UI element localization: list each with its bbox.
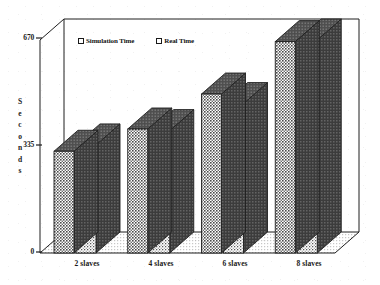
legend-item-real-time: Real Time	[156, 37, 194, 45]
bar-chart-figure: Seconds 670 335 0 Simulation Time Real T…	[0, 0, 380, 285]
y-axis-title-letter-5: d	[12, 154, 28, 166]
legend-item-simulation-time: Simulation Time	[78, 37, 134, 45]
x-tick-label-2-slaves: 2 slaves	[57, 259, 117, 268]
bar-6-slaves-simulation-time	[202, 73, 246, 253]
y-tick-label-335: 335	[10, 140, 34, 149]
bar-4-slaves-simulation-time	[128, 108, 172, 253]
y-axis-ticks	[36, 38, 42, 252]
y-axis-title-letter-0: S	[12, 96, 28, 108]
y-axis-title-letter-1: e	[12, 108, 28, 120]
x-tick-label-8-slaves: 8 slaves	[279, 259, 339, 268]
open-square-marker-icon	[156, 38, 162, 44]
bar-8-slaves-simulation-time	[275, 21, 319, 253]
x-tick-label-6-slaves: 6 slaves	[205, 259, 265, 268]
y-axis-title: Seconds	[12, 96, 28, 177]
open-square-marker-icon	[78, 38, 84, 44]
legend-label-real-time: Real Time	[164, 37, 194, 45]
y-tick-label-0: 0	[10, 247, 34, 256]
bar-2-slaves-simulation-time	[54, 130, 98, 253]
y-axis-title-letter-2: c	[12, 119, 28, 131]
x-tick-label-4-slaves: 4 slaves	[131, 259, 191, 268]
y-tick-label-670: 670	[10, 33, 34, 42]
chart-legend: Simulation Time Real Time	[78, 37, 194, 45]
y-axis-title-letter-6: s	[12, 165, 28, 177]
legend-label-simulation-time: Simulation Time	[86, 37, 134, 45]
